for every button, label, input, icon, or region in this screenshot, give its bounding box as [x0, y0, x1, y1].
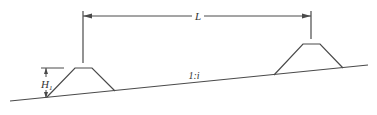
arrowhead-right-icon — [302, 14, 311, 19]
height-label: H1 — [40, 78, 52, 92]
right-embankment — [274, 44, 343, 75]
arrowhead-left-icon — [83, 14, 92, 19]
arrowhead-up-icon — [44, 68, 48, 74]
diagram-canvas: L H1 1:i — [0, 0, 377, 115]
slope-label: 1:i — [188, 70, 199, 81]
height-label-subscript: 1 — [49, 84, 53, 92]
left-embankment — [47, 68, 115, 97]
spacing-label: L — [194, 10, 201, 22]
